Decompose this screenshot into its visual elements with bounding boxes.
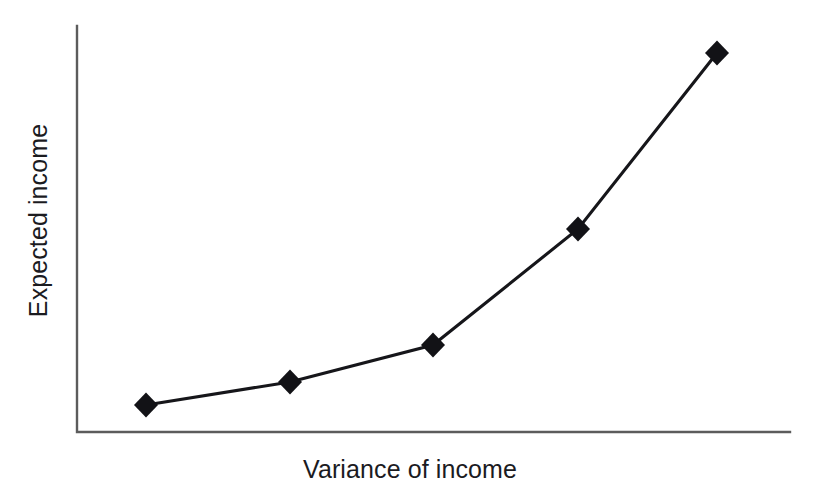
series-group [134, 40, 729, 417]
chart-figure: Expected income Variance of income [0, 0, 820, 495]
axis-lines [77, 26, 790, 432]
data-point-marker [134, 392, 158, 417]
axes-group [77, 26, 790, 432]
y-axis-label-container: Expected income [0, 0, 78, 440]
x-axis-label: Variance of income [0, 455, 820, 484]
data-point-marker [421, 332, 445, 357]
data-point-marker [278, 369, 302, 394]
y-axis-label: Expected income [25, 123, 54, 316]
line-chart-canvas [0, 0, 820, 495]
series-markers [134, 40, 729, 417]
